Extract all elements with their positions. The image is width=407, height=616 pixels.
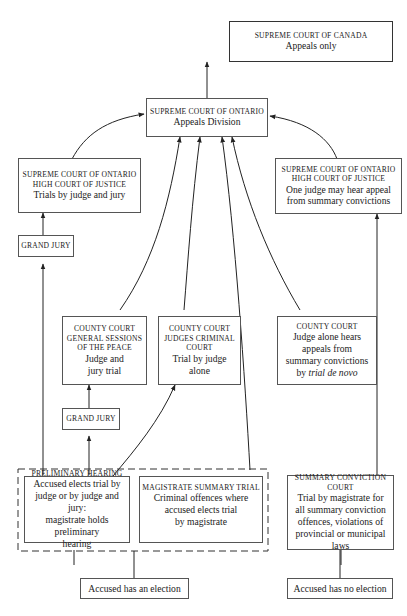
node-label: Accused has an election <box>88 583 180 595</box>
node-desc: laws <box>332 540 350 552</box>
node-desc: offences, violations of <box>298 516 383 528</box>
magistrate-summary-trial: MAGISTRATE SUMMARY TRIAL Criminal offenc… <box>139 476 263 543</box>
node-desc: Judge and <box>85 353 124 365</box>
grand-jury-top: GRAND JURY <box>18 235 74 257</box>
node-desc: Judge alone hears <box>293 331 361 343</box>
node-title: SUPREME COURT OF ONTARIO <box>23 170 137 179</box>
supreme-court-ontario-appeals: SUPREME COURT OF ONTARIO Appeals Divisio… <box>146 98 268 137</box>
accused-has-election: Accused has an election <box>80 578 189 599</box>
node-title: HIGH COURT OF JUSTICE <box>33 180 126 189</box>
node-desc: One judge may hear appeal <box>286 184 391 196</box>
node-title: GENERAL SESSIONS <box>67 334 142 343</box>
supreme-court-canada: SUPREME COURT OF CANADA Appeals only <box>229 21 393 62</box>
desc-prefix: by <box>296 367 308 378</box>
node-desc: jury trial <box>88 365 121 377</box>
node-title: GRAND JURY <box>66 414 115 423</box>
node-desc: judge or by judge and jury: <box>25 490 129 514</box>
county-court-judges-criminal: COUNTY COURT JUDGES CRIMINAL COURT Trial… <box>158 316 241 385</box>
node-title: SUPREME COURT OF CANADA <box>255 31 368 40</box>
node-desc: Criminal offences where <box>154 492 249 504</box>
node-title: COUNTY COURT <box>297 322 358 331</box>
node-desc: Appeals Division <box>174 116 241 128</box>
node-title: GRAND JURY <box>21 241 70 250</box>
node-desc: summary convictions <box>286 355 368 367</box>
node-desc: Trials by judge and jury <box>34 189 126 201</box>
node-desc: from summary convictions <box>287 195 390 207</box>
node-title: COUNTY COURT <box>169 324 230 333</box>
node-title: COURT <box>327 483 353 492</box>
node-desc: all summary conviction <box>295 504 386 516</box>
node-title: MAGISTRATE SUMMARY TRIAL <box>142 483 259 492</box>
node-title: SUPREME COURT OF ONTARIO <box>282 165 396 174</box>
node-label: Accused has no election <box>294 583 387 595</box>
node-desc: appeals from <box>302 343 352 355</box>
desc-italic: trial de novo <box>308 367 357 378</box>
accused-has-no-election: Accused has no election <box>287 578 393 599</box>
node-desc: by trial de novo <box>296 367 357 379</box>
summary-conviction-court: SUMMARY CONVICTION COURT Trial by magist… <box>287 475 394 550</box>
high-court-trials: SUPREME COURT OF ONTARIO HIGH COURT OF J… <box>18 158 141 213</box>
high-court-appeals: SUPREME COURT OF ONTARIO HIGH COURT OF J… <box>275 158 402 214</box>
node-desc: hearing <box>63 538 92 550</box>
node-title: OF THE PEACE <box>77 343 132 352</box>
node-title: SUMMARY CONVICTION <box>295 473 386 482</box>
preliminary-hearing: PRELIMINARY HEARING Accused elects trial… <box>24 476 130 543</box>
node-desc: alone <box>189 365 210 377</box>
node-desc: by magistrate <box>175 516 227 528</box>
county-court-general-sessions: COUNTY COURT GENERAL SESSIONS OF THE PEA… <box>62 316 147 385</box>
node-desc: accused elects trial <box>165 504 237 516</box>
node-title: HIGH COURT OF JUSTICE <box>292 174 385 183</box>
node-desc: Appeals only <box>286 40 337 52</box>
node-title: COUNTY COURT <box>74 324 135 333</box>
node-desc: Accused elects trial by <box>33 478 120 490</box>
node-desc: Trial by judge <box>172 353 226 365</box>
node-desc: magistrate holds preliminary <box>25 514 129 538</box>
node-title: SUPREME COURT OF ONTARIO <box>150 107 264 116</box>
grand-jury-bottom: GRAND JURY <box>62 408 120 430</box>
node-title: PRELIMINARY HEARING <box>31 469 122 478</box>
node-title: JUDGES CRIMINAL <box>164 334 235 343</box>
node-desc: provincial or municipal <box>295 528 385 540</box>
node-desc: Trial by magistrate for <box>297 492 383 504</box>
node-title: COURT <box>186 343 212 352</box>
county-court-appeals: COUNTY COURT Judge alone hears appeals f… <box>277 316 377 385</box>
